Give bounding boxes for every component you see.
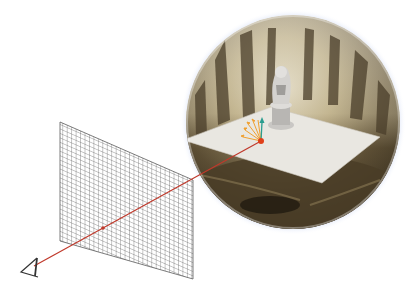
hit-point <box>258 138 264 144</box>
pixel-intersection <box>101 226 105 230</box>
image-plane-grid <box>60 121 194 304</box>
camera-icon <box>21 258 38 277</box>
figure-canvas <box>0 0 416 308</box>
ray-tracing-diagram <box>0 0 416 308</box>
